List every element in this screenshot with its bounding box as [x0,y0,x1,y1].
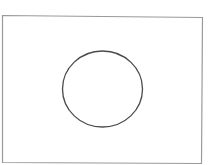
frame-rectangle [3,16,203,164]
diagram-canvas [0,0,217,165]
center-circle [63,51,143,127]
